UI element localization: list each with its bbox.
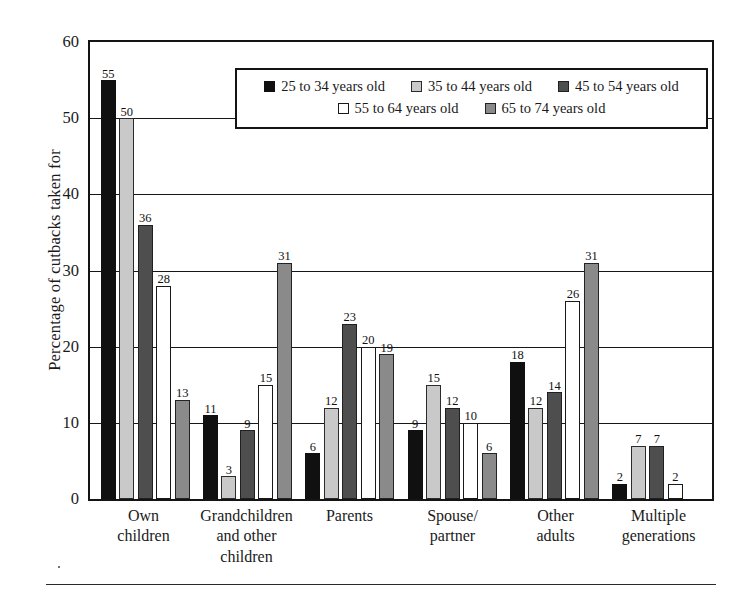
bar-value-label: 7 <box>635 433 641 446</box>
bar-value-label: 12 <box>530 395 543 408</box>
y-tick-label-60: 60 <box>63 32 80 52</box>
page-speck <box>58 566 60 568</box>
bar[interactable]: 31 <box>277 263 292 499</box>
bar[interactable]: 15 <box>426 385 441 499</box>
bar-value-label: 2 <box>672 471 678 484</box>
bar[interactable]: 28 <box>156 286 171 499</box>
bar-value-label: 31 <box>585 250 598 263</box>
legend-swatch-55-64-icon <box>338 103 349 114</box>
y-tick-label-10: 10 <box>63 413 80 433</box>
bar[interactable]: 19 <box>379 354 394 499</box>
legend-swatch-45-54-icon <box>558 81 569 92</box>
x-axis-label: Spouse/ partner <box>401 506 504 567</box>
bar-value-label: 18 <box>511 349 524 362</box>
bar-value-label: 3 <box>226 464 232 477</box>
bar-slot: 11 <box>203 42 218 499</box>
bar-value-label: 26 <box>567 288 580 301</box>
bar[interactable]: 55 <box>101 80 116 499</box>
figure-bar-chart: Percentage of cutbacks taken for 0102030… <box>0 0 744 595</box>
bar-slot: 55 <box>101 42 116 499</box>
bar-value-label: 31 <box>278 250 291 263</box>
bar-value-label: 7 <box>654 433 660 446</box>
bar-value-label: 13 <box>176 387 189 400</box>
y-tick-label-20: 20 <box>63 337 80 357</box>
bar[interactable]: 20 <box>361 347 376 499</box>
legend-item-label: 35 to 44 years old <box>428 76 532 98</box>
bar[interactable]: 26 <box>565 301 580 499</box>
bar-value-label: 23 <box>344 311 357 324</box>
bar-value-label: 6 <box>310 441 316 454</box>
bar-value-label: 10 <box>464 410 477 423</box>
bar[interactable]: 18 <box>510 362 525 499</box>
bar-value-label: 6 <box>486 441 492 454</box>
x-axis-label: Grandchildren and other children <box>195 506 298 567</box>
legend-swatch-35-44-icon <box>411 81 422 92</box>
y-tick-label-0: 0 <box>71 489 79 509</box>
legend-row-1: 25 to 34 years old35 to 44 years old45 t… <box>247 76 696 98</box>
bar[interactable]: 31 <box>584 263 599 499</box>
bar[interactable]: 2 <box>668 484 683 499</box>
y-tick-label-50: 50 <box>63 108 80 128</box>
chart-legend: 25 to 34 years old35 to 44 years old45 t… <box>235 68 708 129</box>
bar-value-label: 15 <box>260 372 273 385</box>
bar[interactable]: 12 <box>528 408 543 499</box>
legend-swatch-65-74-icon <box>485 103 496 114</box>
bar-value-label: 19 <box>381 342 394 355</box>
bar-value-label: 12 <box>325 395 338 408</box>
bar-slot: 36 <box>138 42 153 499</box>
bar-slot: 28 <box>156 42 171 499</box>
bar[interactable]: 11 <box>203 415 218 499</box>
x-axis-category-labels: Own childrenGrandchildren and other chil… <box>88 506 714 567</box>
bar[interactable]: 14 <box>547 392 562 499</box>
bar[interactable]: 50 <box>119 118 134 499</box>
y-tick-label-40: 40 <box>63 184 80 204</box>
legend-item-label: 55 to 64 years old <box>355 98 459 120</box>
bar[interactable]: 15 <box>258 385 273 499</box>
bar-value-label: 9 <box>244 418 250 431</box>
x-axis-label: Parents <box>298 506 401 567</box>
bar-slot: 13 <box>175 42 190 499</box>
bar[interactable]: 12 <box>445 408 460 499</box>
bar-value-label: 2 <box>617 471 623 484</box>
bar[interactable]: 9 <box>408 430 423 499</box>
bar-value-label: 9 <box>412 418 418 431</box>
legend-swatch-25-34-icon <box>264 81 275 92</box>
bar[interactable]: 6 <box>305 453 320 499</box>
bar[interactable]: 9 <box>240 430 255 499</box>
bar-value-label: 28 <box>157 273 170 286</box>
legend-item-label: 25 to 34 years old <box>281 76 385 98</box>
x-axis-label: Multiple generations <box>607 506 710 567</box>
bar-value-label: 50 <box>120 106 133 119</box>
x-axis-label: Other adults <box>504 506 607 567</box>
bar-value-label: 12 <box>446 395 459 408</box>
bar[interactable]: 13 <box>175 400 190 499</box>
legend-item[interactable]: 45 to 54 years old <box>558 76 679 98</box>
bar[interactable]: 12 <box>324 408 339 499</box>
legend-item-label: 45 to 54 years old <box>575 76 679 98</box>
bar-value-label: 36 <box>139 212 152 225</box>
footer-rule <box>46 584 716 585</box>
bar-value-label: 55 <box>102 68 115 81</box>
bar[interactable]: 2 <box>612 484 627 499</box>
bar[interactable]: 7 <box>631 446 646 499</box>
bar[interactable]: 36 <box>138 225 153 499</box>
legend-item[interactable]: 65 to 74 years old <box>485 98 606 120</box>
bar-value-label: 20 <box>362 334 375 347</box>
bar-slot: 50 <box>119 42 134 499</box>
bar-value-label: 15 <box>427 372 440 385</box>
bar[interactable]: 6 <box>482 453 497 499</box>
legend-item[interactable]: 55 to 64 years old <box>338 98 459 120</box>
legend-item[interactable]: 25 to 34 years old <box>264 76 385 98</box>
bar-value-label: 11 <box>204 403 216 416</box>
legend-item[interactable]: 35 to 44 years old <box>411 76 532 98</box>
legend-row-2: 55 to 64 years old65 to 74 years old <box>247 98 696 120</box>
bar[interactable]: 7 <box>649 446 664 499</box>
bar-value-label: 14 <box>548 380 561 393</box>
bar-group: 5550362813 <box>94 42 196 499</box>
bar[interactable]: 10 <box>463 423 478 499</box>
bar[interactable]: 3 <box>221 476 236 499</box>
legend-item-label: 65 to 74 years old <box>502 98 606 120</box>
y-tick-label-30: 30 <box>63 261 80 281</box>
bar[interactable]: 23 <box>342 324 357 499</box>
x-axis-label: Own children <box>92 506 195 567</box>
